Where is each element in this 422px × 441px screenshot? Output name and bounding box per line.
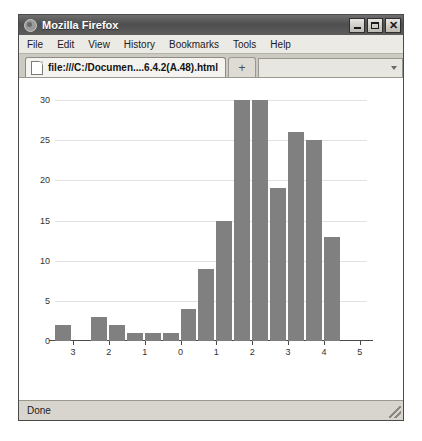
close-button[interactable]: ✕ (385, 18, 401, 33)
y-tick-label: 10 (40, 256, 50, 265)
x-tick-label: 4 (321, 348, 326, 357)
menu-bar: File Edit View History Bookmarks Tools H… (19, 35, 403, 54)
status-bar: Done (19, 400, 403, 420)
bar (216, 221, 232, 341)
x-tick-label: 0 (178, 348, 183, 357)
x-tick-label: 5 (357, 348, 362, 357)
menu-item-history[interactable]: History (124, 39, 155, 50)
x-tick (324, 341, 325, 345)
bar (109, 325, 125, 341)
tab-title: file:///C:/Documen....6.4.2(A.48).html (48, 62, 218, 73)
resize-grip-icon[interactable] (389, 406, 401, 418)
bar (145, 333, 161, 341)
bar (55, 325, 71, 341)
bar (127, 333, 143, 341)
chevron-down-icon (391, 66, 397, 70)
page-content: 051015202530 321012345 (19, 78, 403, 400)
x-tick-label: 2 (250, 348, 255, 357)
x-tick-label: 2 (106, 348, 111, 357)
bar (306, 140, 322, 341)
x-tick (288, 341, 289, 345)
bar (234, 100, 250, 341)
bar (252, 100, 268, 341)
x-tick (145, 341, 146, 345)
menu-item-tools[interactable]: Tools (233, 39, 256, 50)
y-tick-label: 30 (40, 96, 50, 105)
menu-item-edit[interactable]: Edit (57, 39, 74, 50)
tab-strip: file:///C:/Documen....6.4.2(A.48).html + (19, 54, 403, 78)
x-tick (216, 341, 217, 345)
minimize-button[interactable] (349, 18, 365, 33)
close-icon: ✕ (389, 20, 398, 31)
x-tick-label: 1 (142, 348, 147, 357)
x-tick (360, 341, 361, 345)
x-tick (181, 341, 182, 345)
histogram-chart: 051015202530 321012345 (19, 78, 403, 400)
menu-item-help[interactable]: Help (270, 39, 291, 50)
window-titlebar[interactable]: Mozilla Firefox ✕ (19, 15, 403, 35)
y-tick-label: 15 (40, 216, 50, 225)
bar (270, 188, 286, 341)
new-tab-button[interactable]: + (228, 57, 256, 77)
plot-area: 051015202530 321012345 (55, 92, 367, 341)
x-tick (252, 341, 253, 345)
firefox-icon (24, 19, 37, 32)
maximize-icon (371, 22, 379, 29)
bar (198, 269, 214, 341)
menu-item-view[interactable]: View (88, 39, 110, 50)
bar (181, 309, 197, 341)
menu-item-file[interactable]: File (27, 39, 43, 50)
maximize-button[interactable] (367, 18, 383, 33)
x-tick-label: 3 (286, 348, 291, 357)
window-title: Mozilla Firefox (42, 19, 349, 31)
x-tick-label: 3 (70, 348, 75, 357)
y-tick-label: 20 (40, 176, 50, 185)
bar (91, 317, 107, 341)
minimize-icon (354, 27, 361, 29)
x-tick (109, 341, 110, 345)
window-controls: ✕ (349, 18, 401, 33)
x-tick (73, 341, 74, 345)
tab-active[interactable]: file:///C:/Documen....6.4.2(A.48).html (25, 57, 226, 77)
y-tick-label: 0 (45, 337, 50, 346)
bars-group (55, 92, 367, 341)
tab-strip-overflow[interactable] (258, 58, 403, 77)
bar (163, 333, 179, 341)
document-icon (31, 61, 43, 75)
y-tick-label: 5 (45, 296, 50, 305)
y-tick-label: 25 (40, 136, 50, 145)
bar (288, 132, 304, 341)
firefox-window: Mozilla Firefox ✕ File Edit View History… (18, 14, 404, 421)
status-text: Done (27, 405, 51, 416)
x-tick-label: 1 (214, 348, 219, 357)
menu-item-bookmarks[interactable]: Bookmarks (169, 39, 219, 50)
bar (324, 237, 340, 341)
screenshot-root: Mozilla Firefox ✕ File Edit View History… (0, 0, 422, 441)
